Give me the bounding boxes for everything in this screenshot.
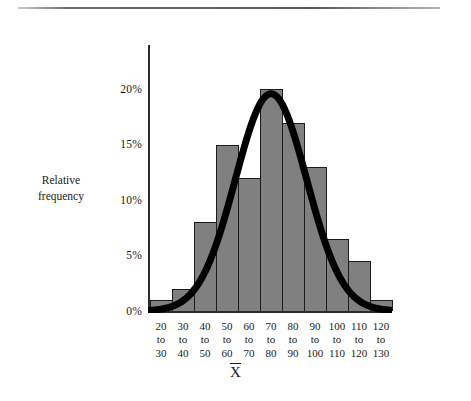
y-tick-label: 5%	[126, 250, 142, 262]
y-tick-label: 20%	[120, 84, 142, 96]
x-tick-label-line: 50	[194, 347, 216, 360]
x-tick-label-line: 80	[282, 320, 304, 333]
x-tick-label-line: 70	[238, 347, 260, 360]
x-tick-label-line: to	[216, 333, 238, 346]
histogram-bars	[150, 45, 392, 311]
x-tick-label-line: 60	[216, 347, 238, 360]
y-tick-label: 15%	[120, 139, 142, 151]
histogram-figure: Relative frequency 0%5%10%15%20% 20to303…	[0, 0, 471, 401]
x-tick-label-line: 100	[304, 347, 326, 360]
histogram-bar	[172, 289, 195, 311]
histogram-bar	[370, 300, 393, 311]
y-axis-title: Relative frequency	[26, 173, 96, 204]
x-axis-title: X	[0, 363, 471, 381]
x-axis-line	[148, 311, 392, 313]
histogram-bar	[304, 167, 327, 311]
y-tick-label: 10%	[120, 195, 142, 207]
x-tick-label-line: to	[194, 333, 216, 346]
x-tick-label: 30to40	[172, 320, 194, 360]
y-tick-label: 0%	[126, 306, 142, 318]
x-tick-label: 50to60	[216, 320, 238, 360]
x-tick-label-line: to	[370, 333, 392, 346]
x-axis-tick-labels: 20to3030to4040to5050to6060to7070to8080to…	[150, 320, 392, 360]
x-tick-label: 40to50	[194, 320, 216, 360]
histogram-bar	[348, 261, 371, 311]
x-tick-label-line: to	[282, 333, 304, 346]
x-tick-label-line: 40	[172, 347, 194, 360]
x-tick-label-line: to	[172, 333, 194, 346]
histogram-bar	[260, 89, 283, 311]
y-axis-title-line1: Relative	[26, 173, 96, 189]
x-tick-label-line: 60	[238, 320, 260, 333]
figure-top-rule	[18, 7, 440, 9]
x-tick-label: 20to30	[150, 320, 172, 360]
x-tick-label: 70to80	[260, 320, 282, 360]
x-tick-label-line: to	[304, 333, 326, 346]
x-tick-label-line: 20	[150, 320, 172, 333]
x-tick-label-line: 120	[370, 320, 392, 333]
x-tick-label-line: to	[238, 333, 260, 346]
x-tick-label-line: 110	[348, 320, 370, 333]
x-tick-label-line: to	[260, 333, 282, 346]
x-tick-label-line: 100	[326, 320, 348, 333]
x-tick-label: 100to110	[326, 320, 348, 360]
y-axis-title-line2: frequency	[26, 189, 96, 205]
x-tick-label-line: 90	[304, 320, 326, 333]
x-tick-label: 80to90	[282, 320, 304, 360]
x-tick-label-line: 80	[260, 347, 282, 360]
x-tick-label-line: 30	[172, 320, 194, 333]
histogram-bar	[194, 222, 217, 311]
x-bar-symbol: X	[230, 363, 241, 381]
x-tick-label: 110to120	[348, 320, 370, 360]
x-tick-label-line: 50	[216, 320, 238, 333]
x-tick-label-line: 130	[370, 347, 392, 360]
x-tick-label-line: to	[348, 333, 370, 346]
x-tick-label-line: 120	[348, 347, 370, 360]
x-tick-label: 60to70	[238, 320, 260, 360]
plot-area	[148, 45, 392, 313]
y-axis-tick-labels: 0%5%10%15%20%	[92, 45, 142, 313]
x-tick-label-line: 70	[260, 320, 282, 333]
x-tick-label: 120to130	[370, 320, 392, 360]
x-tick-label-line: to	[326, 333, 348, 346]
histogram-bar	[326, 239, 349, 311]
histogram-bar	[150, 300, 173, 311]
x-tick-label-line: 90	[282, 347, 304, 360]
x-tick-label-line: 40	[194, 320, 216, 333]
x-tick-label: 90to100	[304, 320, 326, 360]
x-tick-label-line: 30	[150, 347, 172, 360]
x-tick-label-line: 110	[326, 347, 348, 360]
histogram-bar	[238, 178, 261, 311]
x-tick-label-line: to	[150, 333, 172, 346]
histogram-bar	[282, 123, 305, 311]
histogram-bar	[216, 145, 239, 311]
